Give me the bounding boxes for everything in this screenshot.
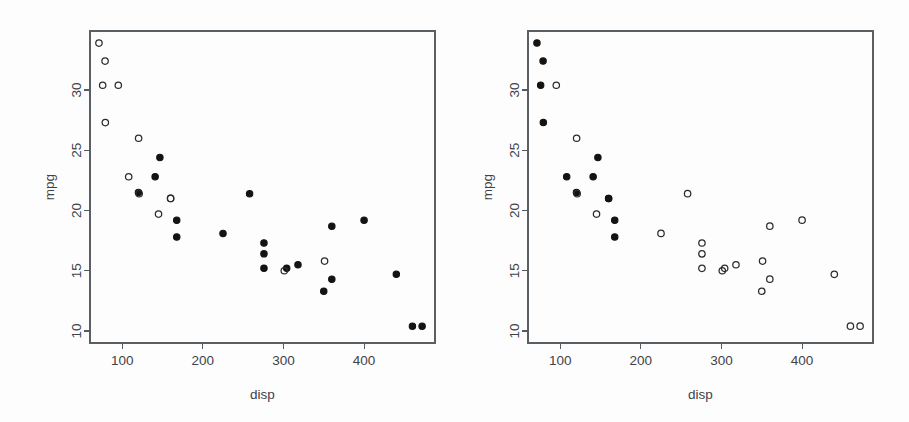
y-tick-label: 10 [69, 323, 84, 338]
data-point-open [759, 258, 765, 264]
y-axis-title: mpg [42, 174, 57, 200]
data-point-open [698, 251, 704, 257]
y-axis-title: mpg [479, 174, 494, 200]
data-point-open [798, 217, 804, 223]
data-point-filled [563, 174, 569, 180]
data-point-open [657, 230, 663, 236]
y-tick-label: 10 [506, 323, 521, 338]
data-point-filled [533, 40, 539, 46]
x-tick-label: 200 [192, 353, 215, 368]
data-point-filled [611, 234, 617, 240]
data-point-open [125, 174, 131, 180]
y-tick-label: 20 [69, 203, 84, 218]
data-point-filled [539, 58, 545, 64]
data-point-filled [393, 271, 399, 277]
data-point-filled [295, 262, 301, 268]
data-point-filled [261, 251, 267, 257]
scatter-panel-right: 1002003004001015202530dispmpg [455, 0, 909, 422]
data-point-open [698, 265, 704, 271]
data-point-filled [540, 119, 546, 125]
data-point-open [102, 58, 108, 64]
scatter-panel-left: 1002003004001015202530dispmpg [0, 0, 455, 422]
y-tick-label: 15 [506, 263, 521, 278]
data-point-filled [419, 323, 425, 329]
data-point-open [102, 119, 108, 125]
data-point-open [553, 82, 559, 88]
data-point-filled [329, 276, 335, 282]
data-point-open [732, 262, 738, 268]
data-point-filled [174, 234, 180, 240]
panel-row: 1002003004001015202530dispmpg 1002003004… [0, 0, 909, 422]
x-tick-label: 400 [353, 353, 376, 368]
data-point-open [758, 288, 764, 294]
scatter-plot-left: 1002003004001015202530dispmpg [0, 0, 455, 422]
data-point-open [99, 82, 105, 88]
y-tick-label: 20 [506, 203, 521, 218]
data-point-filled [361, 217, 367, 223]
figure-canvas: 1002003004001015202530dispmpg 1002003004… [0, 0, 909, 422]
x-tick-label: 400 [790, 353, 813, 368]
data-point-open [684, 190, 690, 196]
data-point-filled [589, 174, 595, 180]
x-tick-label: 100 [548, 353, 571, 368]
data-point-open [321, 258, 327, 264]
data-point-filled [246, 190, 252, 196]
data-point-filled [174, 217, 180, 223]
y-tick-label: 25 [506, 143, 521, 158]
y-tick-label: 30 [69, 83, 84, 98]
data-point-open [831, 271, 837, 277]
data-point-filled [329, 223, 335, 229]
plot-frame [528, 31, 873, 343]
data-point-filled [409, 323, 415, 329]
x-tick-label: 100 [111, 353, 134, 368]
data-point-filled [537, 82, 543, 88]
data-point-filled [157, 154, 163, 160]
data-point-open [167, 195, 173, 201]
x-tick-label: 300 [272, 353, 295, 368]
x-tick-label: 300 [710, 353, 733, 368]
data-point-filled [605, 195, 611, 201]
data-point-open [856, 323, 862, 329]
data-point-open [115, 82, 121, 88]
data-point-filled [261, 240, 267, 246]
data-point-filled [261, 265, 267, 271]
data-point-open [766, 276, 772, 282]
data-point-filled [594, 154, 600, 160]
data-point-open [847, 323, 853, 329]
data-point-open [96, 40, 102, 46]
data-point-filled [611, 217, 617, 223]
scatter-plot-right: 1002003004001015202530dispmpg [455, 0, 909, 422]
y-tick-label: 15 [69, 263, 84, 278]
x-axis-title: disp [250, 387, 275, 402]
y-tick-label: 30 [506, 83, 521, 98]
data-point-open [698, 240, 704, 246]
data-point-open [155, 211, 161, 217]
data-point-open [593, 211, 599, 217]
x-axis-title: disp [688, 387, 713, 402]
y-tick-label: 25 [69, 143, 84, 158]
data-point-filled [220, 230, 226, 236]
data-point-open [573, 135, 579, 141]
data-point-open [766, 223, 772, 229]
x-tick-label: 200 [629, 353, 652, 368]
data-point-open [135, 135, 141, 141]
data-point-filled [152, 174, 158, 180]
data-point-filled [321, 288, 327, 294]
plot-frame [90, 31, 435, 343]
